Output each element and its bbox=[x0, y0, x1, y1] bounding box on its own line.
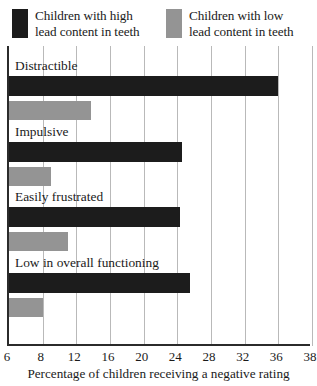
legend-label-high-lead: Children with high lead content in teeth bbox=[35, 8, 139, 39]
plot-area: DistractibleImpulsiveEasily frustratedLo… bbox=[7, 46, 310, 346]
legend-entry-low-lead: Children with low lead content in teeth bbox=[166, 8, 293, 39]
x-axis-title: Percentage of children receiving a negat… bbox=[0, 366, 317, 382]
lead-content-bar-chart: Children with high lead content in teeth… bbox=[0, 0, 317, 386]
dark-swatch-icon bbox=[12, 9, 28, 38]
bar-group: Distractible bbox=[9, 58, 310, 120]
x-tick-28: 28 bbox=[203, 348, 216, 365]
bar-group: Impulsive bbox=[9, 124, 310, 186]
bar-low-lead bbox=[9, 167, 51, 186]
x-tick-8: 8 bbox=[37, 348, 44, 365]
group-label: Distractible bbox=[15, 58, 77, 73]
legend-label-low-lead: Children with low lead content in teeth bbox=[189, 8, 293, 39]
chart-legend: Children with high lead content in teeth… bbox=[0, 0, 317, 46]
gridline-38 bbox=[312, 46, 313, 346]
group-label: Impulsive bbox=[15, 124, 69, 139]
bar-low-lead bbox=[9, 298, 43, 317]
x-tick-20: 20 bbox=[135, 348, 148, 365]
bar-group: Low in overall functioning bbox=[9, 255, 310, 317]
bar-high-lead bbox=[9, 207, 180, 227]
bar-group: Easily frustrated bbox=[9, 189, 310, 251]
bar-groups: DistractibleImpulsiveEasily frustratedLo… bbox=[9, 46, 310, 346]
x-tick-16: 16 bbox=[102, 348, 115, 365]
x-axis-tick-labels: 681216202428323638 bbox=[0, 348, 317, 366]
bar-high-lead bbox=[9, 76, 278, 96]
x-tick-12: 12 bbox=[68, 348, 81, 365]
bar-low-lead bbox=[9, 101, 91, 120]
x-tick-6: 6 bbox=[4, 348, 11, 365]
bar-high-lead bbox=[9, 142, 182, 162]
x-tick-38: 38 bbox=[304, 348, 317, 365]
group-label: Low in overall functioning bbox=[15, 255, 159, 270]
x-tick-24: 24 bbox=[169, 348, 182, 365]
legend-entry-high-lead: Children with high lead content in teeth bbox=[12, 8, 139, 39]
bar-high-lead bbox=[9, 273, 190, 293]
x-axis-line bbox=[7, 344, 310, 346]
group-label: Easily frustrated bbox=[15, 189, 103, 204]
x-tick-32: 32 bbox=[236, 348, 249, 365]
bar-low-lead bbox=[9, 232, 68, 251]
x-tick-36: 36 bbox=[270, 348, 283, 365]
gray-swatch-icon bbox=[166, 9, 182, 38]
